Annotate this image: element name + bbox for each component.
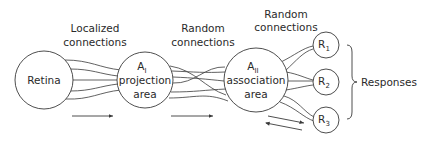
svg-text:Random: Random [181,22,224,34]
svg-text:area: area [244,88,267,100]
svg-text:connections: connections [63,36,126,48]
svg-text:association: association [226,74,285,86]
a2-association-area-node: AII association area [224,48,288,112]
forward-arrow-icon [268,116,304,123]
localized-connections-label: Localized connections [63,22,126,48]
responses-brace-icon [347,45,357,119]
svg-text:Retina: Retina [27,74,60,86]
r3-response-node: R3 [313,107,339,133]
feedback-arrow-icon [266,123,302,130]
svg-text:Random: Random [264,8,307,20]
responses-label: Responses [361,76,417,88]
r1-response-node: R1 [313,32,339,58]
svg-text:Localized: Localized [71,22,120,34]
random-connections-label-1: Random connections [171,22,234,48]
perceptron-diagram: Retina AI projection area AII associatio… [0,0,426,147]
random-connections-label-2: Random connections [254,8,317,33]
svg-text:connections: connections [171,36,234,48]
r2-response-node: R2 [313,69,339,95]
random-connections-a1-a2 [169,66,228,101]
svg-text:projection: projection [119,74,171,86]
a1-projection-area-node: AI projection area [117,52,173,108]
svg-text:connections: connections [254,21,317,33]
svg-text:area: area [133,88,156,100]
retina-node: Retina [15,51,73,109]
